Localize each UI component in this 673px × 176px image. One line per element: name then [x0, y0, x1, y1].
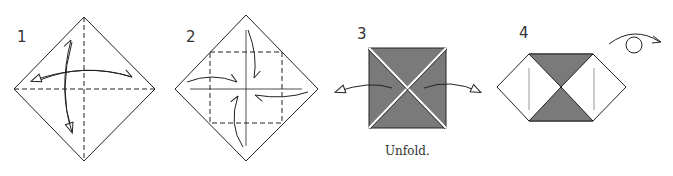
step-caption: Unfold. — [385, 144, 430, 158]
step-number-3: 3 — [357, 25, 367, 43]
step-number-1: 1 — [17, 28, 27, 46]
step-4: 4 — [497, 24, 661, 121]
step-number-2: 2 — [186, 28, 196, 46]
step-number-4: 4 — [519, 24, 529, 42]
origami-diagram: 1 2 3 Unfold. 4 — [0, 0, 673, 176]
paper-diamond — [175, 15, 318, 161]
turn-over-icon — [609, 34, 661, 53]
step-3: 3 Unfold. — [336, 25, 480, 158]
step-2: 2 — [175, 15, 318, 161]
step-1: 1 — [14, 17, 155, 161]
